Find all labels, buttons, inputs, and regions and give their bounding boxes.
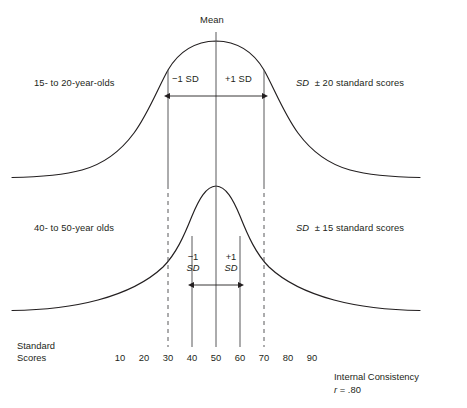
mean-label: Mean (200, 14, 224, 26)
bottom-plus-1sd-label: +1 SD (218, 252, 244, 274)
tick-label-30: 30 (158, 352, 178, 363)
tick-label-40: 40 (182, 352, 202, 363)
footnote-line1: Internal Consistency (334, 371, 419, 384)
footnote-r-value: = .80 (340, 384, 361, 395)
top-plus-1sd-label: +1 SD (225, 73, 252, 85)
top-group-label: 15- to 20-year-olds (34, 77, 115, 89)
top-sd-value: ± 20 standard scores (315, 77, 404, 88)
tick-label-10: 10 (110, 352, 130, 363)
tick-label-70: 70 (254, 352, 274, 363)
axis-caption: Standard Scores (17, 340, 55, 363)
tick-label-80: 80 (278, 352, 298, 363)
top-sd-annotation: SD ± 20 standard scores (296, 77, 404, 89)
bottom-minus-1sd-line2: SD (180, 263, 206, 274)
distribution-figure (0, 0, 467, 408)
axis-caption-line2: Scores (17, 352, 55, 364)
bottom-plus-1sd-line2: SD (218, 263, 244, 274)
bottom-sd-annotation: SD ± 15 standard scores (296, 222, 404, 234)
tick-label-90: 90 (302, 352, 322, 363)
tick-label-20: 20 (134, 352, 154, 363)
bottom-minus-1sd-label: −1 SD (180, 252, 206, 274)
footnote-line2: r = .80 (334, 384, 419, 397)
tick-label-50: 50 (206, 352, 226, 363)
bottom-sd-symbol: SD (296, 222, 309, 233)
axis-caption-line1: Standard (17, 340, 55, 352)
top-minus-1sd-label: −1 SD (172, 73, 199, 85)
figure-root: Mean 15- to 20-year-olds −1 SD +1 SD SD … (0, 0, 467, 408)
top-sd-symbol: SD (296, 77, 309, 88)
tick-label-60: 60 (230, 352, 250, 363)
bottom-sd-value: ± 15 standard scores (315, 222, 404, 233)
footnote: Internal Consistency r = .80 (334, 371, 419, 396)
bottom-group-label: 40- to 50-year olds (34, 222, 114, 234)
